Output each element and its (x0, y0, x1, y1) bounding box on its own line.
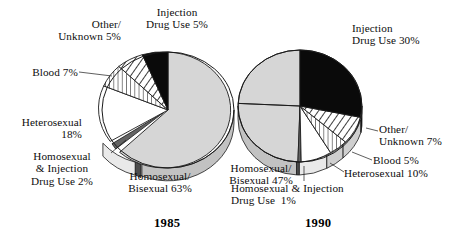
label-injection-drug-use-1985: Injection Drug Use 5% (131, 6, 223, 31)
label-homosexual-injection-1985: Homosexual & Injection Drug Use 2% (14, 150, 110, 187)
label-other-unknown-1990: Other/ Unknown 7% (379, 123, 465, 148)
label-homosexual-injection-1990: Homosexual & Injection Drug Use 1% (231, 182, 411, 207)
year-label-1990: 1990 (305, 216, 331, 231)
leader-line-blood-1985 (79, 72, 112, 76)
year-label-1985: 1985 (154, 216, 180, 231)
aids-transmission-pie-figure: Injection Drug Use 5% Other/ Unknown 5% … (0, 0, 465, 243)
label-homosexual-bisexual-1985: Homosexual/ Bisexual 63% (110, 170, 210, 195)
label-blood-1985: Blood 7% (8, 66, 78, 78)
pie-1985 (99, 52, 234, 181)
label-heterosexual-1985: Heterosexual 18% (0, 116, 82, 141)
leader-line-heterosexual-1990 (330, 163, 344, 172)
pie-1990 (238, 50, 362, 175)
label-heterosexual-1990: Heterosexual 10% (344, 167, 462, 179)
slice-injection-drug-use-1990 (300, 50, 362, 117)
label-blood-1990: Blood 5% (373, 154, 453, 166)
leader-line-other-unknown-1990 (366, 128, 378, 131)
label-other-unknown-1985: Other/ Unknown 5% (22, 18, 121, 43)
leader-line-blood-1990 (352, 152, 372, 160)
label-injection-drug-use-1990: Injection Drug Use 30% (352, 22, 458, 47)
